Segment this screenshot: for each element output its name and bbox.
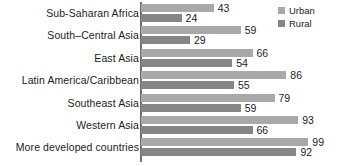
bar-value-label: 55 — [238, 79, 250, 91]
bar-row: 54 — [141, 59, 331, 67]
bar-urban — [141, 94, 275, 102]
bar-row: 92 — [141, 148, 331, 156]
bar-row: 29 — [141, 36, 331, 44]
bar-rural — [141, 59, 232, 67]
bar-rural — [141, 36, 190, 44]
bar-value-label: 29 — [194, 34, 206, 46]
legend-swatch-rural-icon — [278, 20, 285, 27]
legend-label-rural: Rural — [289, 18, 312, 29]
bar-value-label: 92 — [300, 146, 312, 158]
category-label: Western Asia — [0, 120, 139, 131]
bar-row: 93 — [141, 116, 331, 124]
category-label: More developed countries — [0, 142, 139, 153]
bar-row: 66 — [141, 49, 331, 57]
bar-value-label: 86 — [290, 69, 302, 81]
bar-urban — [141, 116, 298, 124]
category-label: Southeast Asia — [0, 98, 139, 109]
bar-rural — [141, 126, 253, 134]
legend-swatch-urban-icon — [278, 7, 285, 14]
bar-value-label: 66 — [257, 124, 269, 136]
bar-value-label: 24 — [186, 12, 198, 24]
bar-value-label: 66 — [257, 47, 269, 59]
bar-rural — [141, 104, 241, 112]
bar-row: 55 — [141, 81, 331, 89]
bar-urban — [141, 71, 286, 79]
bar-row: 66 — [141, 126, 331, 134]
bar-value-label: 43 — [218, 2, 230, 14]
bar-row: 59 — [141, 104, 331, 112]
bar-chart: Sub-Saharan Africa4324South–Central Asia… — [0, 0, 339, 166]
bar-urban — [141, 138, 308, 146]
category-label: South–Central Asia — [0, 30, 139, 41]
bar-value-label: 59 — [245, 24, 257, 36]
bar-rural — [141, 14, 182, 22]
category-label: Latin America/Caribbean — [0, 75, 139, 86]
bar-value-label: 59 — [245, 102, 257, 114]
legend: Urban Rural — [278, 5, 315, 31]
bar-value-label: 93 — [302, 114, 314, 126]
bar-rural — [141, 148, 296, 156]
category-label: Sub-Saharan Africa — [0, 8, 139, 19]
bar-value-label: 79 — [279, 92, 291, 104]
bar-urban — [141, 26, 241, 34]
category-label: East Asia — [0, 53, 139, 64]
bar-row: 79 — [141, 94, 331, 102]
bar-rural — [141, 81, 234, 89]
bar-row: 99 — [141, 138, 331, 146]
bar-row: 86 — [141, 71, 331, 79]
bar-value-label: 99 — [312, 136, 324, 148]
bar-urban — [141, 4, 214, 12]
legend-label-urban: Urban — [289, 5, 315, 16]
legend-item-urban: Urban — [278, 5, 315, 16]
legend-item-rural: Rural — [278, 18, 315, 29]
bar-value-label: 54 — [236, 57, 248, 69]
bar-urban — [141, 49, 253, 57]
